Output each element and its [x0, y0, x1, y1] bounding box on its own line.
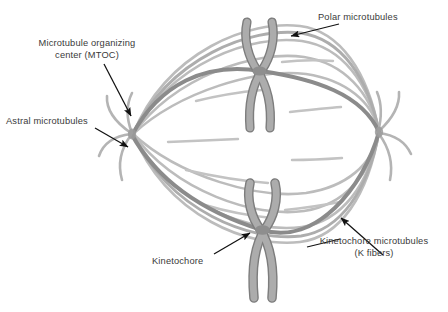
label-mtoc-line2: center (MTOC)	[55, 50, 119, 60]
arrow-kinetochore	[214, 233, 250, 254]
centromere-upper	[252, 66, 266, 75]
label-astral-microtubules: Astral microtubules	[6, 116, 110, 128]
chromosome-lower	[249, 183, 277, 298]
label-kinetochore-microtubules: Kinetochore microtubules (K fibers)	[310, 236, 438, 259]
arrow-astral	[95, 128, 128, 147]
label-mtoc: Microtubule organizing center (MTOC)	[26, 38, 148, 61]
centromere-lower	[255, 225, 270, 235]
label-kfibers-line1: Kinetochore microtubules	[320, 236, 429, 246]
microtubule-organizing-center-right	[375, 127, 383, 138]
astral-microtubules-left	[99, 93, 132, 180]
microtubule-organizing-center-left	[128, 129, 136, 140]
label-polar-microtubules: Polar microtubules	[318, 12, 426, 24]
mitotic-spindle-figure: Microtubule organizing center (MTOC) Ast…	[0, 0, 448, 312]
astral-microtubules-right	[377, 92, 411, 180]
label-kinetochore: Kinetochore	[152, 256, 222, 268]
label-mtoc-line1: Microtubule organizing	[39, 38, 136, 48]
label-kfibers-line2: (K fibers)	[354, 248, 393, 258]
